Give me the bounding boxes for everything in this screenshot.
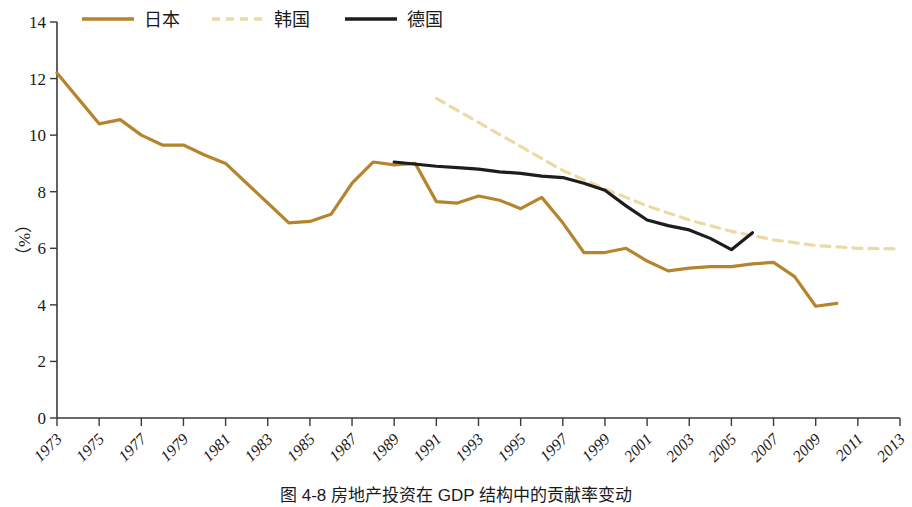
legend-label-japan: 日本 (144, 10, 180, 30)
figure-caption: 图 4-8 房地产投资在 GDP 结构中的贡献率变动 (280, 486, 632, 505)
x-tick-label: 1973 (30, 430, 65, 465)
y-tick-label: 2 (38, 352, 47, 371)
data-series (57, 73, 900, 306)
y-tick-label: 10 (29, 126, 46, 145)
x-tick-label: 1995 (494, 430, 529, 465)
chart-legend: 日本韩国德国 (82, 10, 443, 30)
x-tick-label: 1983 (241, 430, 276, 465)
y-tick-label: 6 (38, 239, 47, 258)
x-tick-label: 1977 (115, 429, 150, 464)
x-tick-label: 2007 (747, 429, 782, 464)
y-tick-label: 14 (29, 13, 47, 32)
y-tick-label: 8 (38, 183, 47, 202)
legend-label-germany: 德国 (407, 10, 443, 30)
x-tick-label: 1997 (536, 429, 571, 464)
x-axis: 1973197519771979198119831985198719891991… (30, 418, 908, 465)
x-tick-label: 2005 (705, 430, 740, 465)
series-line-日本 (57, 73, 837, 306)
y-tick-label: 12 (29, 70, 46, 89)
y-tick-label: 4 (38, 296, 47, 315)
y-axis-title: （%） (15, 216, 34, 264)
legend-label-korea: 韩国 (274, 10, 310, 30)
x-tick-label: 2001 (621, 430, 656, 465)
x-tick-label: 1985 (283, 430, 318, 465)
x-tick-label: 1999 (578, 430, 613, 465)
x-tick-label: 2013 (873, 430, 908, 465)
x-tick-label: 1975 (73, 430, 108, 465)
x-tick-label: 2003 (663, 430, 698, 465)
line-chart: 日本韩国德国 02468101214 197319751977197919811… (0, 0, 912, 507)
chart-page: 日本韩国德国 02468101214 197319751977197919811… (0, 0, 912, 507)
y-tick-label: 0 (38, 409, 47, 428)
x-tick-label: 2011 (832, 430, 866, 464)
x-tick-label: 1991 (410, 430, 445, 465)
x-tick-label: 1993 (452, 430, 487, 465)
x-tick-label: 1989 (368, 430, 403, 465)
x-tick-label: 1987 (326, 429, 361, 464)
x-tick-label: 1981 (199, 430, 234, 465)
x-tick-label: 2009 (789, 430, 824, 465)
x-tick-label: 1979 (157, 430, 192, 465)
